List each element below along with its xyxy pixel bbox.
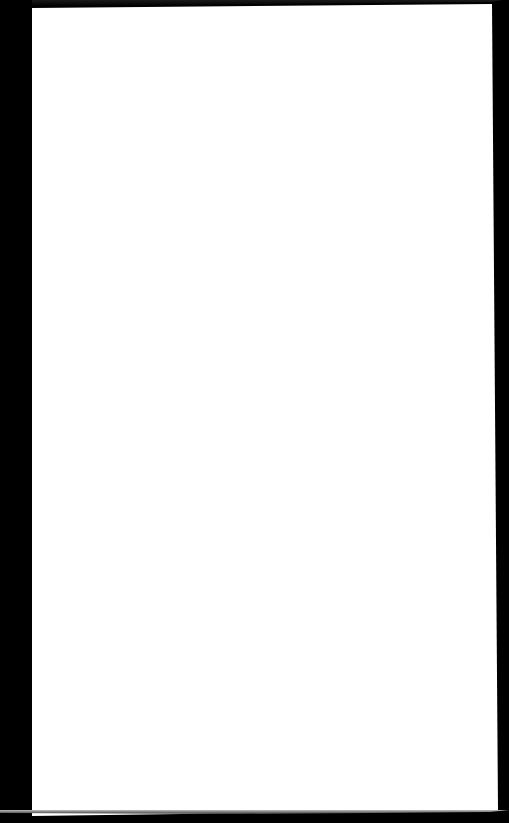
photo-scene — [0, 0, 509, 823]
blank-paper-sheet — [32, 4, 498, 816]
page-content — [32, 4, 498, 816]
